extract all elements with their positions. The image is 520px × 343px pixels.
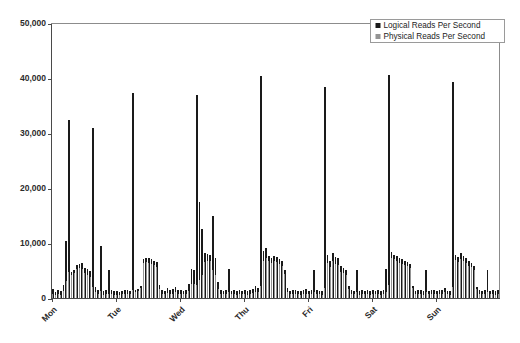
bar-physical <box>418 294 419 299</box>
bar-physical <box>140 288 141 298</box>
bar-physical <box>204 262 205 298</box>
bar-physical <box>487 292 488 299</box>
bar-physical <box>258 292 259 298</box>
bar-physical <box>364 294 365 298</box>
bar-physical <box>434 294 435 298</box>
bar-physical <box>178 294 179 298</box>
bar-physical <box>100 291 101 298</box>
bar-physical <box>410 268 411 298</box>
bar-physical <box>199 280 200 298</box>
bar-physical <box>332 261 333 298</box>
bar-physical <box>388 285 389 298</box>
bar-logical <box>100 246 102 298</box>
reads-per-second-chart: 010,00020,00030,00040,00050,000 MonTueWe… <box>0 0 520 343</box>
bar-physical <box>228 292 229 299</box>
bar-physical <box>348 289 349 299</box>
bar-physical <box>71 275 72 298</box>
bar-logical <box>260 76 262 299</box>
bar-physical <box>303 294 304 298</box>
bar-physical <box>146 262 147 298</box>
bar-physical <box>284 274 285 298</box>
bar-physical <box>242 294 243 298</box>
bar-physical <box>295 294 296 298</box>
bar-physical <box>66 281 67 299</box>
bar-physical <box>351 294 352 298</box>
legend-label-physical[interactable]: Physical Reads Per Second <box>384 32 486 41</box>
y-tick-label: 0 <box>41 293 46 303</box>
bar-physical <box>183 294 184 298</box>
y-tick-label: 30,000 <box>20 128 46 138</box>
bar-physical <box>394 259 395 298</box>
bar-physical <box>196 285 197 299</box>
bar-physical <box>164 294 165 298</box>
chart-legend[interactable]: Logical Reads Per SecondPhysical Reads P… <box>371 20 505 43</box>
bar-physical <box>170 294 171 298</box>
bar-physical <box>466 263 467 299</box>
bar-physical <box>292 294 293 299</box>
bar-physical <box>223 294 224 298</box>
bar-physical <box>346 275 347 298</box>
bar-physical <box>455 260 456 299</box>
bar-physical <box>87 275 88 299</box>
bar-physical <box>90 277 91 299</box>
bar-physical <box>378 294 379 299</box>
bar-physical <box>426 292 427 299</box>
bar-physical <box>452 287 453 299</box>
bar-physical <box>186 294 187 299</box>
bar-physical <box>476 289 477 298</box>
bar-physical <box>324 288 325 298</box>
bar-physical <box>447 294 448 298</box>
bar-physical <box>260 286 261 298</box>
bar-physical <box>175 292 176 298</box>
bar-physical <box>383 294 384 298</box>
bar-physical <box>399 263 400 298</box>
bar-physical <box>191 284 192 298</box>
legend-label-logical[interactable]: Logical Reads Per Second <box>384 21 481 30</box>
bar-physical <box>156 267 157 298</box>
bar-physical <box>463 261 464 298</box>
bar-logical <box>388 75 390 298</box>
bar-physical <box>250 294 251 299</box>
bar-physical <box>482 294 483 298</box>
y-tick-label: 50,000 <box>20 18 46 28</box>
bar-physical <box>490 294 491 298</box>
bar-physical <box>266 258 267 298</box>
bar-physical <box>127 294 128 298</box>
bar-physical <box>314 292 315 299</box>
bar-physical <box>135 292 136 299</box>
bar-physical <box>308 294 309 298</box>
bar-physical <box>154 265 155 299</box>
bar-physical <box>79 268 80 298</box>
bar-physical <box>484 294 485 299</box>
bar-physical <box>132 290 133 299</box>
bar-physical <box>108 294 109 299</box>
bar-physical <box>268 261 269 299</box>
bar-physical <box>210 261 211 298</box>
bar-physical <box>444 292 445 298</box>
bar-physical <box>95 292 96 299</box>
bar-physical <box>338 265 339 299</box>
bar-physical <box>362 294 363 298</box>
bar-physical <box>252 293 253 298</box>
bar-physical <box>263 261 264 299</box>
legend-marker-physical <box>376 34 381 39</box>
bar-physical <box>231 294 232 298</box>
bar-physical <box>428 294 429 298</box>
bar-physical <box>316 294 317 298</box>
bar-physical <box>234 294 235 298</box>
bar-physical <box>354 294 355 298</box>
bar-logical <box>324 87 326 299</box>
bar-physical <box>407 266 408 298</box>
bar-physical <box>151 264 152 299</box>
bar-physical <box>279 264 280 299</box>
bar-physical <box>327 263 328 299</box>
bar-physical <box>172 294 173 299</box>
bar-logical <box>68 120 70 298</box>
bar-physical <box>340 272 341 299</box>
bar-physical <box>492 294 493 298</box>
bar-physical <box>63 291 64 299</box>
bar-physical <box>215 275 216 299</box>
bar-physical <box>474 270 475 299</box>
bar-physical <box>239 294 240 299</box>
legend-marker-logical <box>376 23 381 28</box>
